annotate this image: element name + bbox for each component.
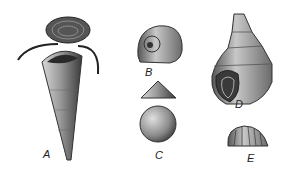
panel-e-ribbed-shell [228, 126, 268, 146]
panel-label-b: B [145, 66, 152, 78]
panel-a-cone-shell [18, 17, 98, 160]
panel-label-d: D [235, 98, 243, 110]
panel-label-a: A [43, 148, 50, 160]
panel-label-e: E [247, 152, 254, 164]
panel-b-coiled-shell [138, 26, 182, 63]
panel-d-spired-shell [212, 14, 272, 104]
panel-label-c: C [155, 149, 163, 161]
panel-c-conical-shell [140, 81, 176, 142]
